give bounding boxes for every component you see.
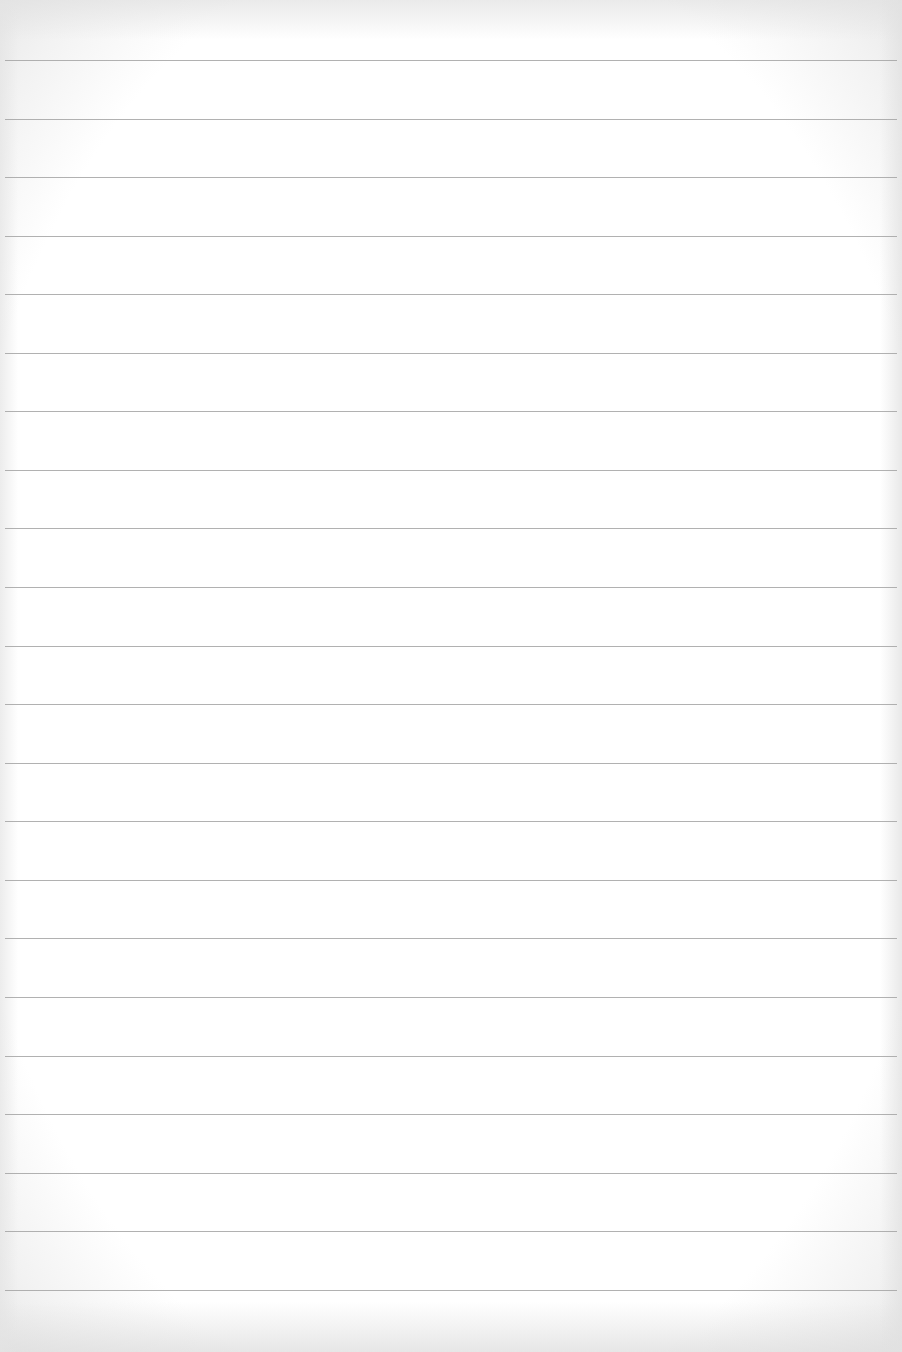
lined-paper-sheet [0, 0, 902, 1352]
ruled-line [5, 1114, 897, 1115]
ruled-line [5, 1173, 897, 1174]
ruled-line [5, 411, 897, 412]
paper-edge-bottom [0, 1302, 902, 1352]
ruled-line [5, 880, 897, 881]
ruled-line [5, 997, 897, 998]
ruled-line [5, 821, 897, 822]
ruled-line [5, 938, 897, 939]
ruled-line [5, 528, 897, 529]
ruled-line [5, 60, 897, 61]
paper-edge-right [880, 0, 902, 1352]
ruled-line [5, 119, 897, 120]
ruled-line [5, 1290, 897, 1291]
paper-edge-left [0, 0, 18, 1352]
ruled-line [5, 353, 897, 354]
ruled-line [5, 763, 897, 764]
ruled-line [5, 1231, 897, 1232]
ruled-line [5, 1056, 897, 1057]
paper-edge-top [0, 0, 902, 40]
ruled-line [5, 236, 897, 237]
ruled-line [5, 704, 897, 705]
ruled-line [5, 646, 897, 647]
ruled-line [5, 294, 897, 295]
ruled-line [5, 177, 897, 178]
ruled-line [5, 587, 897, 588]
ruled-line [5, 470, 897, 471]
